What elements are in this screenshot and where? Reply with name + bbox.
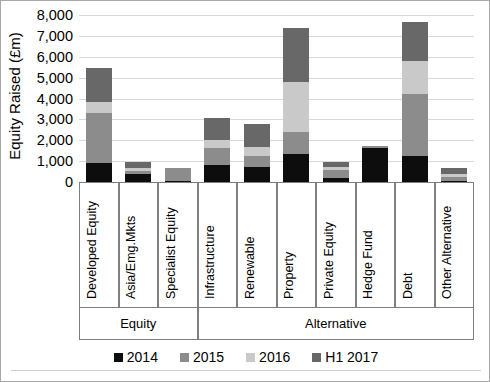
group-cell: Equity (79, 308, 198, 340)
legend-divider (11, 370, 481, 371)
chart-legend: 201420152016H1 2017 (1, 346, 490, 368)
legend-item[interactable]: H1 2017 (312, 349, 378, 365)
bar-segment (402, 156, 428, 182)
bar-column (86, 68, 112, 182)
category-label: Renewable (243, 236, 257, 299)
bar-segment (244, 147, 270, 156)
category-cell: Asia/Emg.Mkts (119, 183, 159, 308)
bar-column (362, 146, 388, 182)
legend-item[interactable]: 2015 (180, 349, 224, 365)
category-label: Property (282, 252, 296, 299)
category-cell: Specialist Equity (158, 183, 198, 308)
category-label: Asia/Emg.Mkts (124, 216, 138, 299)
y-axis-tick-label: 8,000 (13, 8, 73, 22)
bar-segment (283, 82, 309, 132)
bar-segment (283, 28, 309, 82)
legend-label: 2015 (193, 349, 224, 365)
bar-segment (323, 170, 349, 178)
category-cell: Renewable (237, 183, 277, 308)
bar-segment (244, 124, 270, 147)
legend-label: 2016 (259, 349, 290, 365)
bar-column (441, 168, 467, 182)
category-cell: Other Alternative (435, 183, 475, 308)
gridline (79, 15, 474, 16)
y-axis-tick-label: 5,000 (13, 71, 73, 85)
bar-segment (283, 154, 309, 182)
bar-column (323, 162, 349, 182)
bar-segment (402, 94, 428, 156)
bar-segment (86, 113, 112, 164)
y-axis-tick-label: 1,000 (13, 154, 73, 168)
bar-segment (204, 165, 230, 182)
bar-segment (362, 148, 388, 182)
group-label-row: EquityAlternative (79, 308, 474, 340)
bar-segment (244, 156, 270, 167)
group-label: Alternative (305, 316, 366, 331)
legend-swatch-icon (246, 353, 255, 362)
y-axis-tick-label: 4,000 (13, 92, 73, 106)
category-cell: Hedge Fund (356, 183, 396, 308)
bar-column (125, 162, 151, 182)
category-cell: Private Equity (316, 183, 356, 308)
bar-segment (402, 61, 428, 94)
stacked-bar-chart: Equity Raised (£m) 01,0002,0003,0004,000… (0, 0, 490, 382)
y-axis-tick-label: 0 (13, 175, 73, 189)
y-axis-tick-labels: 01,0002,0003,0004,0005,0006,0007,0008,00… (11, 15, 73, 183)
bar-segment (204, 140, 230, 148)
category-label: Private Equity (322, 222, 336, 299)
category-cell: Infrastructure (198, 183, 238, 308)
bar-segment (244, 167, 270, 182)
legend-swatch-icon (312, 353, 321, 362)
bar-segment (204, 148, 230, 165)
bar-segment (204, 118, 230, 140)
category-label: Other Alternative (440, 206, 454, 299)
legend-label: 2014 (127, 349, 158, 365)
plot-area (79, 15, 474, 183)
category-cell: Property (277, 183, 317, 308)
y-axis-tick-label: 3,000 (13, 112, 73, 126)
bar-column (165, 168, 191, 182)
bar-segment (86, 68, 112, 102)
category-cell: Developed Equity (79, 183, 119, 308)
category-label-row: Developed EquityAsia/Emg.MktsSpecialist … (79, 183, 474, 308)
category-label: Infrastructure (203, 225, 217, 299)
y-axis-tick-label: 7,000 (13, 29, 73, 43)
group-cell: Alternative (198, 308, 475, 340)
y-axis-tick-label: 6,000 (13, 50, 73, 64)
bar-column (402, 22, 428, 182)
category-label: Specialist Equity (164, 207, 178, 299)
category-label: Hedge Fund (361, 230, 375, 299)
bar-segment (402, 22, 428, 61)
bar-segment (125, 174, 151, 182)
category-label: Debt (401, 273, 415, 299)
legend-label: H1 2017 (325, 349, 378, 365)
group-label: Equity (120, 316, 156, 331)
bar-column (283, 28, 309, 182)
legend-item[interactable]: 2016 (246, 349, 290, 365)
legend-swatch-icon (180, 353, 189, 362)
legend-item[interactable]: 2014 (114, 349, 158, 365)
category-cell: Debt (395, 183, 435, 308)
category-label: Developed Equity (85, 201, 99, 299)
bar-segment (86, 102, 112, 113)
bar-segment (165, 168, 191, 181)
y-axis-tick-label: 2,000 (13, 133, 73, 147)
bar-column (244, 124, 270, 182)
bar-column (204, 118, 230, 182)
bar-segment (86, 163, 112, 182)
legend-swatch-icon (114, 353, 123, 362)
bar-segment (283, 132, 309, 155)
